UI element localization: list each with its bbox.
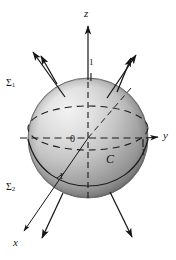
normal-arrow-upper-right-outer [117,58,131,92]
normal-arrow-upper-left [33,52,65,97]
upper-hemisphere-subscript: 1 [12,81,16,89]
y-axis-label: y [163,130,168,141]
y-unit-tick-label: 1 [141,148,146,157]
lower-hemisphere-subscript: 2 [12,185,16,193]
upper-hemisphere-label: Σ1 [6,78,15,89]
normal-arrow-upper-left-outer [41,56,57,84]
x-unit-tick-label: 1 [59,172,64,181]
z-unit-tick-label: 1 [89,58,94,67]
normal-arrow-lower-right [110,192,132,237]
lower-hemisphere-label: Σ2 [6,182,15,193]
figure-container: z y x 1 1 1 0 C Σ1 Σ2 [0,0,176,260]
sphere-diagram-svg [0,0,176,260]
curve-c-label: C [106,153,114,165]
origin-label: 0 [70,134,75,144]
x-axis-label: x [13,237,18,248]
z-axis-label: z [84,8,88,19]
